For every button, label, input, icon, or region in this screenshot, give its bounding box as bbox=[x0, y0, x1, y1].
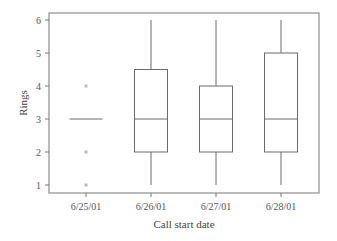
x-axis-title: Call start date bbox=[153, 218, 214, 230]
box-6-28-01 bbox=[265, 20, 298, 185]
x-tick-label: 6/28/01 bbox=[266, 201, 297, 212]
iqr-box bbox=[135, 70, 168, 153]
box-6-27-01 bbox=[200, 20, 233, 185]
y-tick-label: 6 bbox=[36, 15, 41, 26]
x-tick-label: 6/25/01 bbox=[71, 201, 102, 212]
box-6-25-01 bbox=[70, 85, 103, 187]
y-tick-label: 5 bbox=[36, 48, 41, 59]
outlier-point bbox=[85, 184, 88, 187]
x-tick-label: 6/27/01 bbox=[201, 201, 232, 212]
x-axis: 6/25/016/26/016/27/016/28/01 bbox=[71, 193, 297, 212]
y-tick-label: 4 bbox=[36, 81, 41, 92]
y-axis-title: Rings bbox=[17, 90, 29, 116]
y-tick-label: 2 bbox=[36, 147, 41, 158]
y-tick-label: 1 bbox=[36, 180, 41, 191]
box-6-26-01 bbox=[135, 20, 168, 185]
x-tick-label: 6/26/01 bbox=[136, 201, 167, 212]
outlier-point bbox=[85, 151, 88, 154]
y-tick-label: 3 bbox=[36, 114, 41, 125]
y-axis: 123456 bbox=[36, 15, 49, 191]
plot-frame bbox=[49, 13, 319, 193]
box-series bbox=[70, 20, 298, 187]
outlier-point bbox=[85, 85, 88, 88]
iqr-box bbox=[265, 53, 298, 152]
box-plot-chart: 123456 6/25/016/26/016/27/016/28/01 Ring… bbox=[0, 0, 337, 241]
